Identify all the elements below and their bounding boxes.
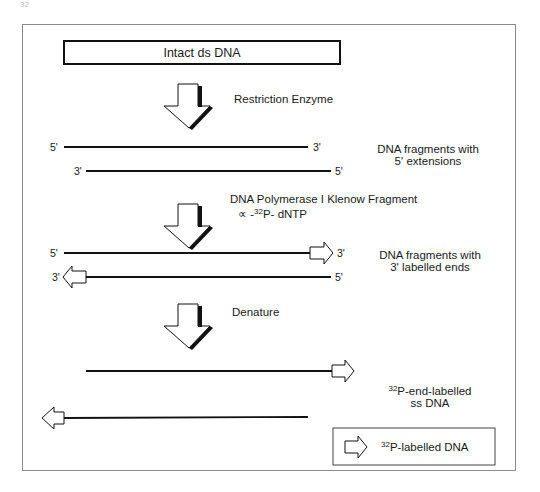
end-label: 5'	[335, 271, 343, 283]
end-label: 3'	[52, 271, 60, 283]
diagram-graphics	[0, 0, 540, 492]
end-label: 3'	[337, 247, 345, 259]
end-label: 3'	[74, 165, 82, 177]
down-arrow-icon	[164, 84, 213, 130]
label-arrow-left-icon	[42, 407, 64, 429]
stage2-description: DNA fragments with3' labelled ends	[370, 249, 490, 273]
label-arrow-right-icon	[310, 242, 333, 264]
end-label: 5'	[335, 165, 343, 177]
step-label-dntp: ∝ -32P- dNTP	[238, 207, 307, 221]
label-arrow-right-icon	[332, 360, 354, 382]
step-label-denature: Denature	[232, 306, 279, 318]
label-arrow-left-icon	[63, 266, 86, 288]
end-label: 5'	[50, 141, 58, 153]
end-label: 5'	[50, 247, 58, 259]
end-label: 3'	[313, 141, 321, 153]
legend-label: 32P-labelled DNA	[381, 440, 469, 453]
down-arrow-icon	[164, 204, 213, 250]
step-label-restriction: Restriction Enzyme	[234, 93, 333, 105]
stage1-description: DNA fragments with5' extensions	[368, 143, 488, 167]
stage3-description: 32P-end-labelledss DNA	[370, 384, 490, 409]
ss-dna-strand	[64, 417, 308, 418]
step-label-klenow: DNA Polymerase I Klenow Fragment	[230, 193, 417, 205]
down-arrow-icon	[164, 304, 213, 350]
